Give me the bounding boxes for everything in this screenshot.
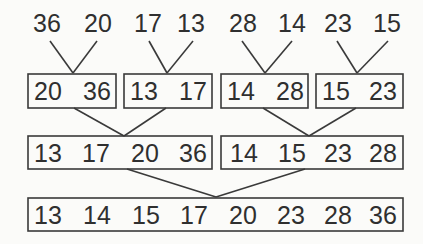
- edge: [127, 169, 216, 197]
- cell-value: 17: [179, 77, 207, 105]
- edge: [309, 108, 356, 136]
- edge: [357, 41, 388, 73]
- level2-box: 14 15 23 28: [221, 136, 403, 169]
- cell-value: 36: [83, 77, 111, 105]
- edges-level2-to-level3: [127, 169, 305, 197]
- cell-value: 23: [369, 77, 397, 105]
- cell-value: 13: [34, 201, 62, 229]
- cell-value: 28: [324, 201, 352, 229]
- cell-value: 28: [369, 139, 397, 167]
- edge: [242, 41, 265, 73]
- cell-value: 23: [324, 139, 352, 167]
- cell-value: 28: [276, 77, 304, 105]
- edge: [167, 41, 193, 73]
- edge: [73, 41, 97, 73]
- input-value: 13: [177, 9, 205, 37]
- cell-value: 13: [130, 77, 158, 105]
- level2-row: 13 17 20 36 14 15 23 28: [28, 136, 403, 169]
- level1-box: 13 17: [124, 74, 212, 108]
- input-row: 36 20 17 13 28 14 23 15: [33, 9, 401, 37]
- cell-value: 14: [230, 139, 258, 167]
- edge: [124, 108, 166, 136]
- level2-box: 13 17 20 36: [28, 136, 212, 169]
- level3-row: 13 14 15 17 20 23 28 36: [28, 198, 403, 231]
- input-value: 20: [84, 9, 112, 37]
- edge: [263, 108, 309, 136]
- cell-value: 15: [132, 201, 160, 229]
- edge: [337, 41, 357, 73]
- cell-value: 14: [83, 201, 111, 229]
- edges-input-to-level1: [50, 41, 388, 73]
- level1-box: 14 28: [221, 74, 308, 108]
- merge-sort-diagram: 36 20 17 13 28 14 23 15 20 36 13 17 14 2…: [0, 0, 423, 244]
- input-value: 36: [33, 9, 61, 37]
- cell-value: 20: [34, 77, 62, 105]
- cell-value: 17: [180, 201, 208, 229]
- input-value: 15: [373, 9, 401, 37]
- input-value: 14: [278, 9, 306, 37]
- cell-value: 36: [179, 139, 207, 167]
- input-value: 28: [229, 9, 257, 37]
- edge: [50, 41, 73, 73]
- level1-box: 20 36: [28, 74, 116, 108]
- level1-row: 20 36 13 17 14 28 15 23: [28, 74, 403, 108]
- input-value: 23: [324, 9, 352, 37]
- edge: [216, 169, 305, 197]
- edges-level1-to-level2: [74, 108, 356, 136]
- cell-value: 13: [34, 139, 62, 167]
- edge: [149, 41, 167, 73]
- cell-value: 15: [322, 77, 350, 105]
- edge: [74, 108, 124, 136]
- cell-value: 20: [131, 139, 159, 167]
- input-value: 17: [134, 9, 162, 37]
- edge: [265, 41, 292, 73]
- cell-value: 20: [229, 201, 257, 229]
- cell-value: 14: [227, 77, 255, 105]
- cell-value: 23: [277, 201, 305, 229]
- level3-box: 13 14 15 17 20 23 28 36: [28, 198, 403, 231]
- cell-value: 15: [278, 139, 306, 167]
- cell-value: 17: [82, 139, 110, 167]
- level1-box: 15 23: [316, 74, 403, 108]
- cell-value: 36: [369, 201, 397, 229]
